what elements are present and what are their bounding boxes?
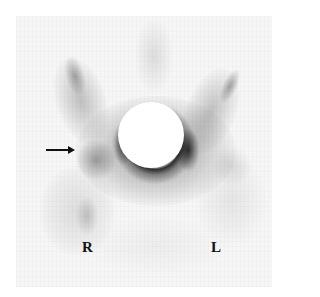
lower-pelvis (86, 216, 226, 276)
left-side-label: L (211, 240, 221, 255)
right-femur-shaft (76, 196, 98, 236)
right-iliac-wing (43, 50, 118, 151)
left-hip (212, 146, 252, 186)
right-hip-lesion (76, 140, 116, 180)
arrow-shaft (46, 149, 70, 151)
arrow-head (68, 146, 75, 154)
left-iliac-wing (171, 60, 251, 162)
right-side-label: R (82, 240, 93, 255)
right-iliac-crest (61, 54, 89, 97)
right-femur-region (40, 166, 115, 256)
arrow-icon (46, 146, 76, 154)
spine-uptake (134, 16, 174, 96)
left-femur-region (196, 156, 266, 246)
bladder (118, 102, 184, 168)
left-iliac-crest (216, 67, 244, 106)
